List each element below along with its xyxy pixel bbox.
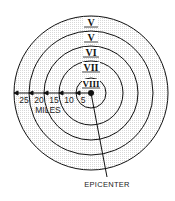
distance-label-10: 10 bbox=[64, 95, 74, 105]
intensity-labels: V V VI VII VIII bbox=[82, 17, 100, 89]
distance-label-20: 20 bbox=[34, 95, 44, 105]
distance-label-25: 25 bbox=[19, 95, 29, 105]
distance-label-15: 15 bbox=[49, 95, 59, 105]
intensity-label-ring2: V bbox=[87, 32, 95, 43]
units-label: MILES bbox=[35, 105, 61, 115]
intensity-label-ring4: VII bbox=[83, 62, 98, 73]
intensity-label-ring5: VIII bbox=[82, 79, 100, 89]
intensity-label-ring1: V bbox=[87, 17, 95, 28]
intensity-label-ring3: VI bbox=[85, 47, 96, 58]
epicenter-label: EPICENTER bbox=[84, 180, 130, 189]
intensity-diagram: V V VI VII VIII 25 20 15 10 5 MILES EPIC… bbox=[0, 0, 175, 201]
distance-label-5: 5 bbox=[81, 95, 86, 105]
